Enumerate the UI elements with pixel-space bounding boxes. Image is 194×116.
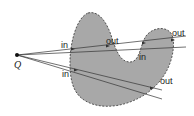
region-shape xyxy=(70,13,173,107)
label-in-3: in xyxy=(62,69,69,79)
label-out-1: out xyxy=(106,36,119,46)
diagram-canvas: Q in out in out in out xyxy=(0,0,194,116)
point-q-label: Q xyxy=(14,59,22,70)
label-in-2: in xyxy=(139,52,146,62)
label-in-1: in xyxy=(61,40,68,50)
label-out-3: out xyxy=(160,76,173,86)
point-q-icon xyxy=(15,53,19,57)
label-out-2: out xyxy=(172,28,185,38)
